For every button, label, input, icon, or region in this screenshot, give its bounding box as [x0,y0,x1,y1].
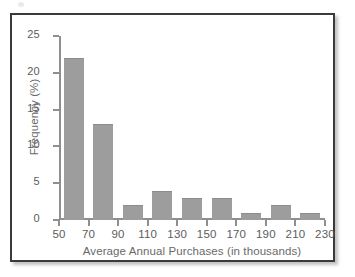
x-axis-tick [235,220,237,226]
x-axis-tick-label: 150 [192,228,222,240]
x-axis-tick-label: 90 [103,228,133,240]
x-axis-tick [265,220,267,226]
x-axis-tick [58,220,60,226]
bars-layer [59,36,325,220]
histogram-plot: 0510152025 507090110130150170190210230 F… [12,15,333,260]
x-axis-tick [206,220,208,226]
x-axis-tick [176,220,178,226]
scan-artifact [18,2,24,7]
x-axis-tick [88,220,90,226]
histogram-bar [123,205,143,220]
y-axis-tick-label: 25 [16,28,40,40]
x-axis-tick-label: 130 [162,228,192,240]
x-axis-tick-label: 170 [221,228,251,240]
y-axis-tick-label: 0 [16,212,40,224]
histogram-bar [182,198,202,220]
x-axis-tick-label: 230 [310,228,340,240]
histogram-bar [300,213,320,220]
x-axis-tick [294,220,296,226]
x-axis-tick-label: 190 [251,228,281,240]
histogram-bar [271,205,291,220]
x-axis-tick-label: 50 [44,228,74,240]
x-axis-tick [117,220,119,226]
histogram-bar [212,198,232,220]
x-axis-tick-label: 210 [280,228,310,240]
y-axis-title: Frequency (%) [28,47,40,187]
figure-frame: 0510152025 507090110130150170190210230 F… [10,13,335,262]
histogram-bar [241,213,261,220]
histogram-bar [152,191,172,220]
x-axis-tick [147,220,149,226]
x-axis-tick [324,220,326,226]
histogram-bar [64,58,84,220]
x-axis-tick-label: 110 [133,228,163,240]
x-axis-title: Average Annual Purchases (in thousands) [59,245,325,257]
histogram-bar [93,124,113,220]
x-axis-tick-label: 70 [74,228,104,240]
